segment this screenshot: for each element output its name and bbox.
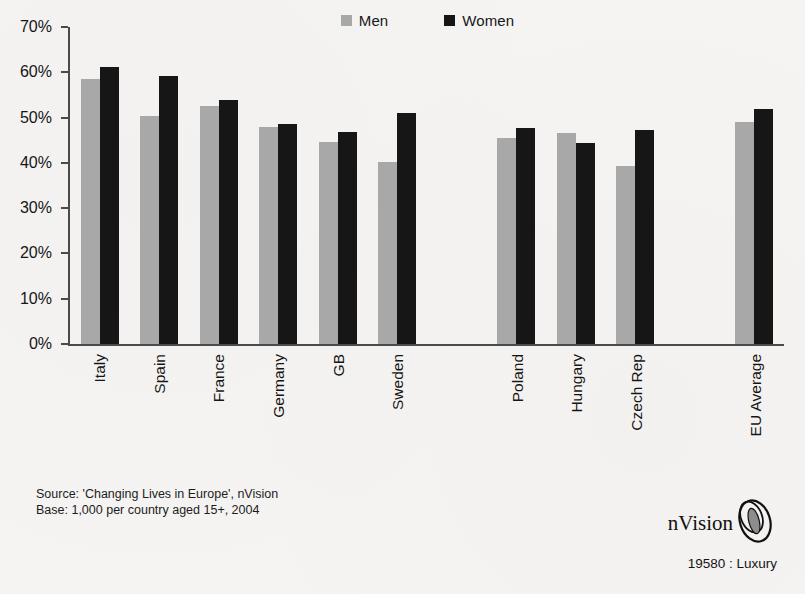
x-axis-label-france: France bbox=[211, 354, 227, 402]
y-tick-10: 10% bbox=[61, 298, 68, 300]
x-axis-label-gb: GB bbox=[331, 354, 347, 376]
x-axis-label-spain: Spain bbox=[152, 354, 168, 394]
bar-men-france[interactable] bbox=[200, 106, 219, 344]
x-label-slot-poland: Poland bbox=[488, 350, 548, 460]
chart-page: MenWomen 70%60%50%40%30%20%10%0% ItalySp… bbox=[0, 0, 805, 594]
bar-group-Sweden[interactable] bbox=[368, 27, 428, 344]
bar-women-gb[interactable] bbox=[338, 132, 357, 344]
legend-item-men[interactable]: Men bbox=[341, 13, 388, 28]
bar-men-germany[interactable] bbox=[259, 127, 278, 344]
bar-men-hungary[interactable] bbox=[557, 133, 576, 344]
bar-women-italy[interactable] bbox=[100, 67, 119, 344]
x-label-slot-empty-6 bbox=[428, 350, 488, 460]
bar-men-italy[interactable] bbox=[81, 79, 100, 344]
bar-group-Poland[interactable] bbox=[487, 27, 547, 344]
y-tick-40: 40% bbox=[61, 162, 68, 164]
bar-group-Germany[interactable] bbox=[249, 27, 309, 344]
bar-men-eu-average[interactable] bbox=[735, 122, 754, 344]
x-axis-line bbox=[68, 344, 784, 346]
y-tick-30: 30% bbox=[61, 207, 68, 209]
x-axis-label-sweden: Sweden bbox=[390, 354, 406, 410]
y-tick-60: 60% bbox=[61, 71, 68, 73]
bar-women-germany[interactable] bbox=[278, 124, 297, 344]
plot-area: 70%60%50%40%30%20%10%0% bbox=[68, 27, 784, 344]
bar-group-Italy[interactable] bbox=[70, 27, 130, 344]
x-axis-label-poland: Poland bbox=[510, 354, 526, 402]
bar-men-gb[interactable] bbox=[319, 142, 338, 344]
bar-group-Czech Rep[interactable] bbox=[606, 27, 666, 344]
y-tick-label-10: 10% bbox=[20, 291, 52, 307]
x-label-slot-france: France bbox=[189, 350, 249, 460]
legend-swatch-women bbox=[444, 15, 455, 26]
brand-code: 19580 : Luxury bbox=[688, 557, 777, 571]
bar-groups bbox=[70, 27, 784, 344]
x-label-slot-empty-10 bbox=[667, 350, 727, 460]
bar-group-GB[interactable] bbox=[308, 27, 368, 344]
x-label-slot-italy: Italy bbox=[70, 350, 130, 460]
bar-women-sweden[interactable] bbox=[397, 113, 416, 344]
legend-item-women[interactable]: Women bbox=[444, 13, 514, 28]
x-label-slot-eu-average: EU Average bbox=[726, 350, 786, 460]
bar-men-poland[interactable] bbox=[497, 138, 516, 344]
brand-name: nVision bbox=[668, 513, 733, 534]
bar-women-poland[interactable] bbox=[516, 128, 535, 344]
x-label-slot-gb: GB bbox=[309, 350, 369, 460]
x-label-slot-sweden: Sweden bbox=[368, 350, 428, 460]
bar-women-france[interactable] bbox=[219, 100, 238, 344]
legend-label-women: Women bbox=[462, 13, 514, 28]
bar-women-spain[interactable] bbox=[159, 76, 178, 344]
x-axis-label-italy: Italy bbox=[92, 354, 108, 382]
source-line-1: Source: 'Changing Lives in Europe', nVis… bbox=[36, 486, 278, 502]
legend-label-men: Men bbox=[359, 13, 388, 28]
y-tick-label-50: 50% bbox=[20, 110, 52, 126]
y-tick-label-0: 0% bbox=[29, 336, 52, 352]
source-note: Source: 'Changing Lives in Europe', nVis… bbox=[36, 486, 278, 518]
y-tick-label-40: 40% bbox=[20, 155, 52, 171]
brand-block: nVision 19580 : Luxury bbox=[595, 495, 785, 587]
brand-row: nVision bbox=[668, 513, 733, 534]
bar-group-Spain[interactable] bbox=[130, 27, 190, 344]
x-axis-label-hungary: Hungary bbox=[569, 354, 585, 413]
y-tick-label-60: 60% bbox=[20, 64, 52, 80]
x-axis-label-germany: Germany bbox=[271, 354, 287, 418]
y-tick-70: 70% bbox=[61, 26, 68, 28]
y-tick-label-30: 30% bbox=[20, 200, 52, 216]
legend-swatch-men bbox=[341, 15, 352, 26]
x-axis-category-labels: ItalySpainFranceGermanyGBSwedenPolandHun… bbox=[70, 350, 786, 460]
bar-women-eu-average[interactable] bbox=[754, 109, 773, 344]
y-tick-label-20: 20% bbox=[20, 245, 52, 261]
y-tick-0: 0% bbox=[61, 343, 68, 345]
x-label-slot-czech-rep: Czech Rep bbox=[607, 350, 667, 460]
bar-women-czech-rep[interactable] bbox=[635, 130, 654, 344]
y-tick-label-70: 70% bbox=[20, 19, 52, 35]
y-tick-20: 20% bbox=[61, 252, 68, 254]
nvision-ellipse-logo-icon bbox=[731, 495, 777, 545]
bar-men-czech-rep[interactable] bbox=[616, 166, 635, 344]
bar-men-sweden[interactable] bbox=[378, 162, 397, 344]
x-label-slot-hungary: Hungary bbox=[547, 350, 607, 460]
bar-group-Hungary[interactable] bbox=[546, 27, 606, 344]
bar-women-hungary[interactable] bbox=[576, 143, 595, 344]
source-line-2: Base: 1,000 per country aged 15+, 2004 bbox=[36, 502, 278, 518]
x-axis-label-czech-rep: Czech Rep bbox=[629, 354, 645, 431]
bar-group-spacer-10 bbox=[665, 27, 725, 344]
bar-men-spain[interactable] bbox=[140, 116, 159, 344]
bar-group-France[interactable] bbox=[189, 27, 249, 344]
x-label-slot-germany: Germany bbox=[249, 350, 309, 460]
bar-group-spacer-6 bbox=[427, 27, 487, 344]
x-axis-label-eu-average: EU Average bbox=[748, 354, 764, 436]
x-label-slot-spain: Spain bbox=[130, 350, 190, 460]
bar-group-EU Average[interactable] bbox=[725, 27, 785, 344]
y-tick-50: 50% bbox=[61, 117, 68, 119]
